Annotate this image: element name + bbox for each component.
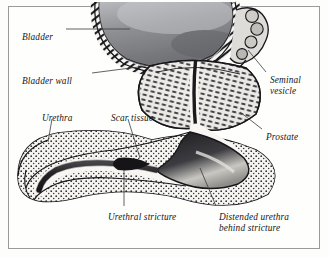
label-prostate: Prostate: [266, 132, 298, 143]
anatomical-figure: Bladder Bladder wall Urethra Scar tissue…: [0, 0, 329, 257]
label-bladder: Bladder: [22, 32, 53, 43]
urethra-group: [14, 124, 294, 220]
label-distended-urethra: Distended urethra behind stricture: [219, 212, 315, 235]
label-scar-tissue: Scar tissue: [111, 113, 153, 124]
label-urethral-stricture: Urethral stricture: [108, 212, 176, 223]
label-seminal-vesicle: Seminal vesicle: [270, 75, 329, 98]
label-bladder-wall: Bladder wall: [22, 76, 72, 87]
label-urethra: Urethra: [42, 113, 73, 124]
prostate-group: [138, 56, 272, 140]
